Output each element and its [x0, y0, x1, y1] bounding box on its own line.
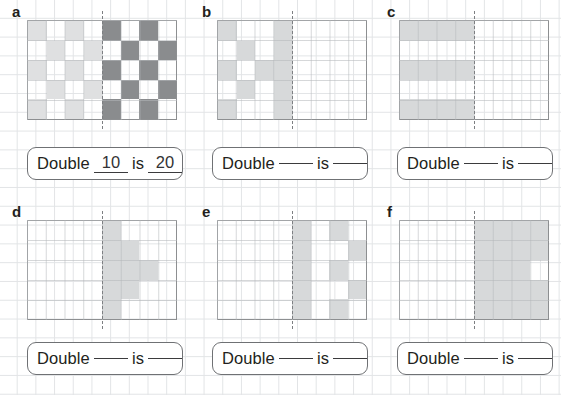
cell-r3-c3 — [65, 260, 84, 280]
cell-r4-c5 — [474, 80, 493, 100]
cell-r2-c7 — [511, 41, 530, 61]
figure-c — [399, 20, 549, 120]
cell-r3-c3 — [255, 260, 274, 280]
cell-r4-c5 — [102, 280, 121, 300]
cell-r3-c4 — [456, 260, 475, 280]
label-double-a: Double — [37, 154, 90, 173]
cell-r5-c7 — [511, 99, 530, 119]
cell-r4-c8 — [348, 80, 367, 100]
cell-r1-c3 — [65, 221, 84, 241]
cell-r2-c4 — [84, 41, 103, 61]
cell-r1-c2 — [237, 21, 256, 41]
label-is-b: is — [317, 154, 329, 173]
cell-r2-c6 — [311, 241, 330, 261]
cell-r1-c3 — [437, 21, 456, 41]
cell-r2-c7 — [139, 241, 158, 261]
cell-r2-c4 — [274, 41, 293, 61]
answer-box-f[interactable]: Double is — [397, 342, 553, 375]
cell-r5-c8 — [158, 99, 177, 119]
answer-box-a[interactable]: Double 10 is 20 — [27, 147, 183, 180]
cell-r2-c4 — [84, 241, 103, 261]
answer-blank-second-b[interactable] — [333, 163, 367, 164]
cell-r5-c1 — [218, 99, 237, 119]
worksheet-panels: a Double 10 is 20 b Double is c — [0, 0, 561, 395]
cell-r4-c4 — [84, 80, 103, 100]
cell-r4-c4 — [456, 280, 475, 300]
cell-r5-c7 — [329, 299, 348, 319]
cell-r5-c1 — [400, 299, 419, 319]
panel-letter-f: f — [387, 204, 392, 219]
answer-blank-first-e[interactable] — [279, 358, 313, 359]
cell-r3-c6 — [311, 60, 330, 80]
cell-r2-c4 — [456, 41, 475, 61]
cell-r3-c5 — [102, 60, 121, 80]
answer-blank-second-c[interactable] — [518, 163, 552, 164]
answer-box-c[interactable]: Double is — [397, 147, 553, 180]
cell-r1-c2 — [419, 221, 438, 241]
cell-r3-c2 — [419, 60, 438, 80]
answer-box-d[interactable]: Double is — [27, 342, 183, 375]
label-double-c: Double — [407, 154, 460, 173]
cell-r1-c2 — [47, 221, 66, 241]
cell-r4-c3 — [437, 80, 456, 100]
cell-r3-c2 — [237, 260, 256, 280]
cell-r4-c8 — [530, 280, 549, 300]
cell-r1-c5 — [102, 221, 121, 241]
cell-r2-c6 — [121, 241, 140, 261]
panel-e: e Double is — [190, 200, 375, 395]
cell-r2-c1 — [218, 241, 237, 261]
cell-r3-c1 — [218, 60, 237, 80]
answer-blank-first-d[interactable] — [94, 358, 128, 359]
cell-r5-c5 — [292, 99, 311, 119]
cell-r5-c3 — [255, 299, 274, 319]
cell-r2-c8 — [158, 241, 177, 261]
answer-blank-first-c[interactable] — [464, 163, 498, 164]
cell-r2-c8 — [158, 41, 177, 61]
label-is-f: is — [502, 349, 514, 368]
answer-blank-second-a[interactable]: 20 — [148, 154, 182, 172]
answer-blank-second-d[interactable] — [148, 358, 182, 359]
cell-r3-c8 — [158, 60, 177, 80]
answer-blank-second-e[interactable] — [333, 358, 367, 359]
cell-r2-c4 — [456, 241, 475, 261]
cell-r2-c2 — [47, 241, 66, 261]
cell-r1-c7 — [139, 21, 158, 41]
cell-r5-c5 — [474, 299, 493, 319]
cell-r4-c6 — [311, 80, 330, 100]
cell-r3-c3 — [65, 60, 84, 80]
answer-box-e[interactable]: Double is — [212, 342, 368, 375]
cell-r5-c7 — [139, 99, 158, 119]
cell-r5-c4 — [456, 299, 475, 319]
cell-r2-c5 — [292, 241, 311, 261]
cell-r3-c2 — [47, 260, 66, 280]
cell-r4-c7 — [511, 280, 530, 300]
cell-r1-c7 — [511, 21, 530, 41]
cell-r5-c2 — [237, 299, 256, 319]
cell-r4-c1 — [28, 280, 47, 300]
cell-r3-c4 — [274, 260, 293, 280]
cell-r2-c2 — [419, 241, 438, 261]
cell-r3-c3 — [437, 260, 456, 280]
label-is-a: is — [132, 154, 144, 173]
cell-r4-c8 — [158, 280, 177, 300]
cell-r4-c5 — [102, 80, 121, 100]
answer-box-b[interactable]: Double is — [212, 147, 368, 180]
answer-blank-first-f[interactable] — [464, 358, 498, 359]
cell-r1-c6 — [311, 221, 330, 241]
cell-r3-c2 — [47, 60, 66, 80]
cell-r4-c3 — [65, 80, 84, 100]
cell-r2-c1 — [400, 41, 419, 61]
cell-r5-c5 — [102, 99, 121, 119]
cell-r1-c8 — [348, 221, 367, 241]
cell-r4-c1 — [28, 80, 47, 100]
cell-r1-c4 — [84, 21, 103, 41]
answer-blank-first-a[interactable]: 10 — [94, 154, 128, 172]
cell-r5-c5 — [474, 99, 493, 119]
answer-blank-second-f[interactable] — [518, 358, 552, 359]
cell-r3-c3 — [255, 60, 274, 80]
cell-r1-c1 — [400, 21, 419, 41]
cell-r3-c7 — [511, 260, 530, 280]
cell-r4-c7 — [329, 80, 348, 100]
answer-blank-first-b[interactable] — [279, 163, 313, 164]
cell-r1-c4 — [274, 21, 293, 41]
